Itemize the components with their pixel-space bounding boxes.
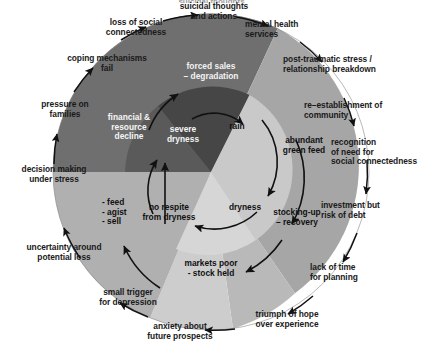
- label-severe-dryness: severe dryness: [155, 125, 211, 144]
- label-loss-of-social-connectedness: loss of social connectedness: [86, 18, 186, 37]
- label-uncertainty-potential-loss: uncertainty around potential loss: [8, 243, 120, 262]
- label-forced-sales-degradation: forced sales – degradation: [162, 62, 260, 81]
- label-mental-health-services: mental health services: [245, 20, 341, 39]
- label-financial-resource-decline: financial & resource decline: [96, 113, 162, 142]
- label-no-respite-from-dryness: no respite from dryness: [134, 203, 204, 222]
- label-coping-mechanisms-fail: coping mechanisms fail: [50, 54, 164, 73]
- label-recognition-of-need: recognition of need for social connected…: [331, 138, 423, 167]
- label-abundant-green-feed: abundant green feed: [271, 136, 337, 155]
- label-lack-of-time-planning: lack of time for planning: [310, 263, 406, 282]
- label-decision-making-stress: decision making under stress: [2, 165, 106, 184]
- label-rain: rain: [219, 122, 255, 132]
- label-markets-poor-stock-held: markets poor - stock held: [168, 259, 254, 278]
- label-feed-agist-sell: - feed - agist - sell: [102, 198, 136, 227]
- label-investment-risk-of-debt: investment but risk of debt: [321, 201, 421, 220]
- label-small-trigger-depression: small trigger for depression: [78, 288, 178, 307]
- diagram-canvas: suicidal thoughts: [0, 0, 423, 348]
- label-anxiety-future-prospects: anxiety about future prospects: [127, 322, 233, 341]
- label-stocking-up-recovery: stocking-up – recovery: [261, 208, 333, 227]
- label-post-traumatic-stress: post-traumatic stress / relationship bre…: [283, 55, 423, 74]
- label-dryness: dryness: [219, 203, 271, 213]
- label-triumph-of-hope: triumph of hope over experience: [233, 310, 341, 329]
- label-re-establishment-community: re–establishment of community: [304, 101, 422, 120]
